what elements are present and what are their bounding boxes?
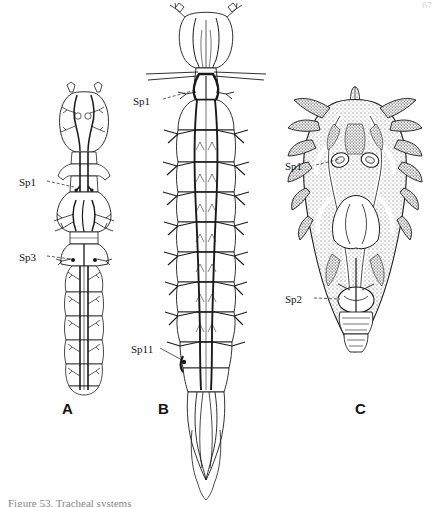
annotation-panel-b-sp11: Sp11 [131, 343, 153, 355]
panel-letter-a: A [62, 400, 73, 417]
panel-letter-b: B [158, 400, 169, 417]
figure-plate: A B C Sp1 Sp3 Sp1 Sp11 Sp1 Sp2 Figure 53… [0, 0, 438, 507]
annotation-panel-b-sp1: Sp1 [133, 95, 150, 107]
figure-illustration [0, 0, 438, 507]
panel-b-drawing [146, 3, 266, 500]
page-corner-mark: 67 [422, 0, 432, 8]
figure-caption: Figure 53. Tracheal systems [8, 497, 428, 507]
panel-a-abdomen [65, 266, 104, 395]
annotation-panel-a-sp3: Sp3 [19, 251, 36, 263]
annotation-panel-c-sp2: Sp2 [285, 293, 302, 305]
annotation-panel-c-sp1: Sp1 [285, 160, 302, 172]
panel-c-drawing [288, 86, 422, 352]
panel-letter-c: C [355, 400, 366, 417]
panel-a-drawing [47, 82, 114, 395]
annotation-panel-a-sp1: Sp1 [19, 176, 36, 188]
